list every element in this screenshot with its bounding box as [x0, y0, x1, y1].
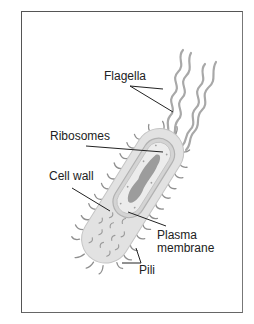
label-cell-wall: Cell wall	[49, 170, 94, 183]
label-flagella: Flagella	[104, 70, 146, 83]
bacterium-illustration	[0, 0, 254, 324]
label-plasma-membrane-2: membrane	[157, 242, 214, 255]
label-pili: Pili	[139, 264, 155, 277]
label-ribosomes: Ribosomes	[50, 130, 110, 143]
